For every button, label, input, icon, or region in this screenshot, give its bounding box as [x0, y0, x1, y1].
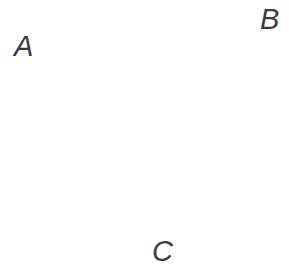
canvas-background: [0, 0, 289, 279]
vertex-label-b: B: [260, 5, 279, 34]
triangle-drawing: [0, 0, 289, 279]
vertex-label-a: A: [14, 32, 33, 61]
vertex-label-c: C: [152, 237, 173, 266]
triangle-figure: A B C: [0, 0, 289, 279]
